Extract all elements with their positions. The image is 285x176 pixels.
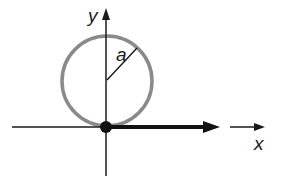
x-axis-label: x: [253, 133, 265, 154]
y-axis-label: y: [86, 5, 99, 26]
origin-point: [100, 121, 112, 133]
y-axis-arrow-icon: [102, 8, 110, 20]
thick-vector-arrow-icon: [203, 121, 220, 133]
radius-label: a: [116, 44, 127, 65]
circle: [62, 36, 152, 126]
circle-diagram: y a x: [0, 0, 285, 176]
x-axis-arrow-icon: [254, 123, 265, 131]
